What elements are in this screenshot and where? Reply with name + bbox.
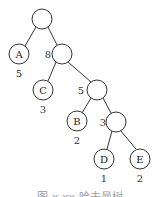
node-weight: 8 — [45, 49, 51, 60]
edge-root-n8 — [48, 27, 57, 45]
node-C: C 3 — [33, 80, 53, 115]
edge-root-A — [25, 27, 36, 46]
figure-caption: 图 x.xx 哈夫曼树 — [37, 190, 122, 197]
node-A: A 5 — [9, 44, 29, 79]
node-weight: 1 — [101, 173, 107, 184]
node-label: B — [73, 116, 80, 127]
edge-n8-C — [48, 62, 56, 81]
node-weight: 5 — [16, 68, 22, 79]
node-weight: 2 — [74, 135, 80, 146]
node-label: A — [14, 49, 23, 60]
node-weight: 5 — [78, 85, 84, 96]
edge-n8-n5 — [68, 62, 91, 82]
node-weight: 3 — [40, 104, 46, 115]
node-label: D — [100, 154, 108, 165]
node-label: E — [136, 154, 143, 165]
huffman-tree-diagram: A 5 8 C 3 5 B 2 3 D 1 E 2 图 x.xx 哈夫曼树 — [0, 0, 159, 197]
edge-n3-E — [121, 131, 136, 149]
node-B: B 2 — [67, 111, 87, 146]
node-D: D 1 — [94, 149, 114, 184]
edge-n3-D — [107, 131, 112, 149]
node-label: C — [39, 85, 47, 96]
node-weight: 3 — [100, 117, 106, 128]
node-internal-5: 5 — [78, 80, 107, 100]
node-internal-3: 3 — [100, 112, 126, 132]
node-weight: 2 — [137, 173, 143, 184]
node-internal-8: 8 — [45, 44, 72, 64]
node-E: E 2 — [130, 149, 150, 184]
edge-n5-n3 — [103, 98, 111, 113]
edge-n5-B — [82, 98, 91, 113]
node-root — [32, 9, 52, 29]
